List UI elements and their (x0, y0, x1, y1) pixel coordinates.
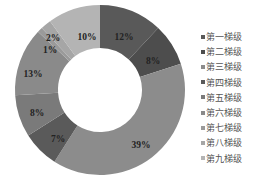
legend-item: 第一梯级 (201, 29, 255, 44)
legend-item: 第四梯级 (201, 75, 255, 90)
legend-swatch (201, 80, 205, 84)
legend-label: 第五梯级 (206, 91, 242, 104)
legend-label: 第九梯级 (206, 152, 242, 165)
segment-label: 7% (51, 134, 65, 144)
legend-swatch (201, 95, 205, 99)
legend-swatch (201, 156, 205, 160)
legend-item: 第六梯级 (201, 105, 255, 120)
legend-label: 第四梯级 (206, 76, 242, 89)
legend-item: 第三梯级 (201, 59, 255, 74)
legend: 第一梯级 第二梯级 第三梯级 第四梯级 第五梯级 第六梯级 第七梯级 第八梯级 … (201, 29, 255, 166)
segment-label: 8% (30, 108, 44, 118)
donut-chart: 12%8%39%7%8%13%1%2%10% (0, 0, 190, 181)
legend-label: 第二梯级 (206, 45, 242, 58)
legend-item: 第五梯级 (201, 90, 255, 105)
segment-label: 13% (24, 69, 43, 79)
legend-item: 第九梯级 (201, 151, 255, 166)
segment-label: 39% (132, 140, 151, 150)
legend-label: 第六梯级 (206, 106, 242, 119)
legend-label: 第八梯级 (206, 136, 242, 149)
legend-item: 第八梯级 (201, 135, 255, 150)
donut-segment (54, 64, 185, 175)
segment-label: 10% (78, 32, 97, 42)
segment-label: 1% (43, 45, 57, 55)
legend-label: 第七梯级 (206, 121, 242, 134)
legend-swatch (201, 126, 205, 130)
legend-swatch (201, 65, 205, 69)
segment-label: 2% (46, 33, 60, 43)
legend-swatch (201, 50, 205, 54)
legend-item: 第二梯级 (201, 44, 255, 59)
legend-label: 第一梯级 (206, 30, 242, 43)
legend-item: 第七梯级 (201, 120, 255, 135)
segment-label: 8% (146, 56, 160, 66)
segment-label: 12% (115, 32, 134, 42)
legend-swatch (201, 141, 205, 145)
legend-swatch (201, 35, 205, 39)
legend-swatch (201, 111, 205, 115)
legend-label: 第三梯级 (206, 60, 242, 73)
